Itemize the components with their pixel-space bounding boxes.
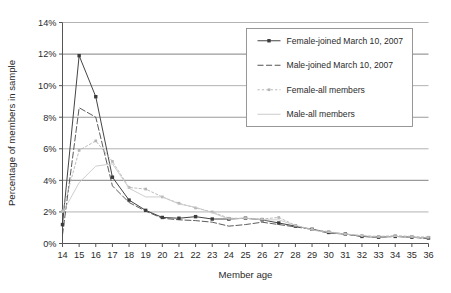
x-tick-label-14: 14	[57, 250, 67, 260]
y-tick-label-2: 2%	[43, 207, 56, 217]
legend-label-1: Male-joined March 10, 2007	[287, 60, 394, 70]
series-0-marker-22	[194, 215, 197, 218]
y-tick-label-6: 6%	[43, 144, 56, 154]
x-tick-label-20: 20	[157, 250, 167, 260]
x-axis-title: Member age	[219, 269, 273, 280]
x-tick-label-22: 22	[190, 250, 200, 260]
x-tick-label-30: 30	[324, 250, 334, 260]
series-2-marker-15	[78, 149, 81, 152]
x-tick-label-33: 33	[373, 250, 383, 260]
member-age-line-chart: 0%2%4%6%8%10%12%14% 14151617181920212223…	[0, 0, 451, 293]
x-tick-label-35: 35	[407, 250, 417, 260]
series-0-marker-18	[127, 198, 130, 201]
chart-legend: Female-joined March 10, 2007Male-joined …	[247, 29, 413, 127]
series-0-marker-15	[77, 54, 80, 57]
x-tick-label-32: 32	[357, 250, 367, 260]
y-tick-label-12: 12%	[38, 49, 56, 59]
series-2-marker-27	[277, 216, 280, 219]
y-axis-title: Percentage of members in sample	[6, 60, 17, 206]
x-tick-label-24: 24	[224, 250, 234, 260]
series-0-marker-17	[111, 176, 114, 179]
y-tick-label-0: 0%	[43, 239, 56, 249]
x-tick-label-21: 21	[174, 250, 184, 260]
x-tick-label-36: 36	[423, 250, 433, 260]
x-tick-label-16: 16	[91, 250, 101, 260]
series-2-marker-16	[94, 140, 97, 143]
y-tick-label-8: 8%	[43, 113, 56, 123]
y-tick-label-10: 10%	[38, 81, 56, 91]
x-tick-label-18: 18	[124, 250, 134, 260]
x-tick-label-27: 27	[274, 250, 284, 260]
chart-figure: 0%2%4%6%8%10%12%14% 14151617181920212223…	[0, 0, 451, 293]
legend-label-3: Male-all members	[287, 109, 355, 119]
y-tick-label-4: 4%	[43, 176, 56, 186]
x-tick-label-15: 15	[74, 250, 84, 260]
legend-label-2: Female-all members	[287, 85, 365, 95]
x-tick-label-28: 28	[290, 250, 300, 260]
x-tick-label-26: 26	[257, 250, 267, 260]
legend-swatch-marker-0	[267, 39, 270, 42]
x-tick-label-17: 17	[107, 250, 117, 260]
series-2-marker-19	[144, 188, 147, 191]
x-tick-label-34: 34	[390, 250, 400, 260]
legend-swatch-marker-2	[268, 88, 271, 91]
series-0-marker-23	[211, 217, 214, 220]
series-2-marker-17	[111, 160, 114, 163]
x-tick-label-19: 19	[141, 250, 151, 260]
x-tick-label-group: 1415161718192021222324252627282930313233…	[57, 250, 433, 260]
series-0-marker-16	[94, 95, 97, 98]
y-tick-label-14: 14%	[38, 18, 56, 28]
x-tick-label-25: 25	[240, 250, 250, 260]
x-tick-label-29: 29	[307, 250, 317, 260]
legend-label-0: Female-joined March 10, 2007	[287, 36, 404, 46]
x-tick-label-23: 23	[207, 250, 217, 260]
x-tick-label-31: 31	[340, 250, 350, 260]
